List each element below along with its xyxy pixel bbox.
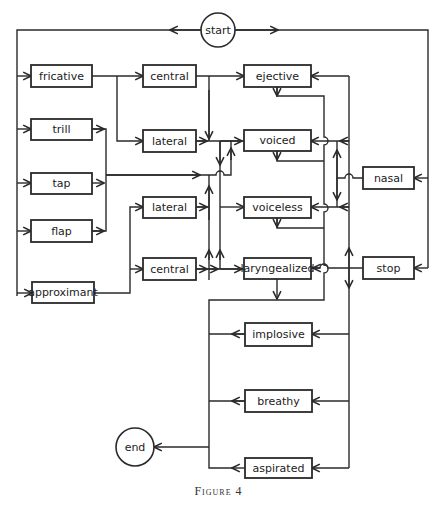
lateral-1-label: lateral [152,135,187,148]
node-start: start [201,13,235,47]
voiceless-label: voiceless [252,201,303,214]
tap-label: tap [52,177,70,190]
trill-label: trill [52,123,70,136]
lateral-2-label: lateral [152,201,187,214]
node-end: end [116,428,154,466]
flowchart-diagram: start end fricative trill tap flap appro… [0,0,437,507]
central-1-label: central [150,70,188,83]
flap-label: flap [51,225,72,238]
laryngealized-label: laryngealized [241,262,315,275]
approximant-label: approximant [28,286,98,299]
implosive-label: implosive [252,328,305,341]
nasal-label: nasal [374,172,403,185]
central-2-label: central [150,263,188,276]
connector-lines [17,30,428,468]
voiced-label: voiced [259,134,295,147]
end-label: end [125,441,146,454]
figure-caption: Figure 4 [0,484,437,499]
stop-label: stop [377,262,401,275]
aspirated-label: aspirated [253,462,305,475]
ejective-label: ejective [256,70,300,83]
breathy-label: breathy [257,395,300,408]
start-label: start [205,24,231,37]
fricative-label: fricative [39,70,84,83]
